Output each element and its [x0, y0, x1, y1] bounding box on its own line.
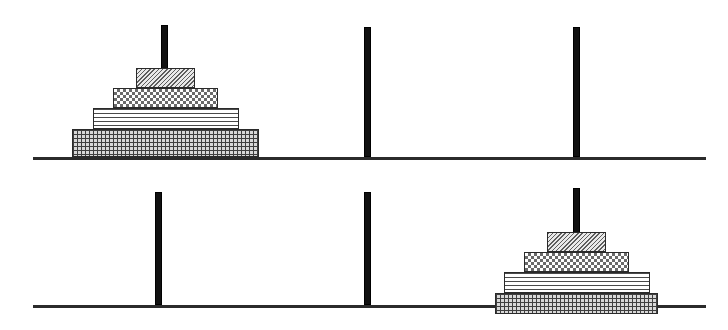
disk-final-state-size-3[interactable]: [504, 272, 650, 293]
disk-initial-state-size-3[interactable]: [93, 108, 239, 129]
disk-initial-state-size-4[interactable]: [72, 129, 259, 157]
peg-initial-state-2[interactable]: [364, 27, 371, 157]
baseline-initial-state: [33, 157, 706, 160]
peg-initial-state-3[interactable]: [573, 27, 580, 157]
disk-final-state-size-1[interactable]: [547, 232, 606, 252]
disk-initial-state-size-2[interactable]: [113, 88, 218, 108]
disk-final-state-size-4[interactable]: [495, 293, 658, 314]
disk-final-state-size-2[interactable]: [524, 252, 629, 272]
peg-final-state-1[interactable]: [155, 192, 162, 305]
peg-final-state-2[interactable]: [364, 192, 371, 305]
hanoi-figure: [0, 0, 728, 330]
disk-initial-state-size-1[interactable]: [136, 68, 195, 88]
